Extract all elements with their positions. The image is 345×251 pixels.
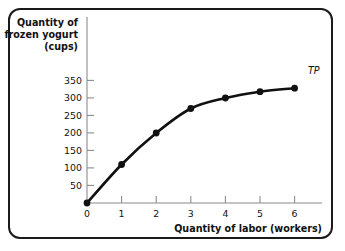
y-tick-label-350: 350 [64,75,82,86]
data-point [153,130,160,137]
data-point [291,85,298,92]
y-axis-ticks: 50 100 150 200 250 300 350 [64,75,94,191]
x-tick-label-3: 3 [188,208,194,219]
x-tick-label-0: 0 [84,208,90,219]
x-tick-label-2: 2 [153,208,159,219]
y-tick-label-200: 200 [64,127,82,138]
y-tick-label-300: 300 [64,92,82,103]
y-tick-label-250: 250 [64,110,82,121]
y-tick-label-150: 150 [64,145,82,156]
x-tick-label-1: 1 [119,208,125,219]
x-tick-label-5: 5 [257,208,263,219]
x-axis-ticks: 0 1 2 3 4 5 6 [84,196,298,219]
x-tick-label-6: 6 [292,208,298,219]
data-point [118,161,125,168]
y-tick-label-100: 100 [64,162,82,173]
curve-label-tp: TP [308,65,320,76]
total-product-chart: Quantity of frozen yogurt (cups) 50 100 … [0,0,345,251]
y-tick-label-50: 50 [70,180,82,191]
y-axis-title-line-1: Quantity of [17,17,79,28]
y-axis-title-line-3: (cups) [44,41,78,52]
data-point [84,200,91,207]
x-axis-title: Quantity of labor (workers) [174,223,322,234]
data-point [187,105,194,112]
data-point [257,88,264,95]
data-point [222,95,229,102]
figure-container: Quantity of frozen yogurt (cups) 50 100 … [0,0,345,251]
data-point-markers [84,85,298,207]
y-axis-title-line-2: frozen yogurt [4,29,78,40]
x-tick-label-4: 4 [222,208,228,219]
y-axis-title: Quantity of frozen yogurt (cups) [4,17,78,52]
